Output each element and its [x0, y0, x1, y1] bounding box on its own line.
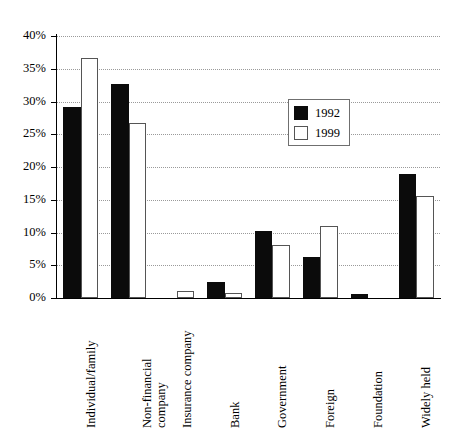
- bar-group: [201, 36, 249, 298]
- category-label: Insurance company: [181, 330, 195, 428]
- bar-1999: [225, 293, 243, 298]
- y-tick-text: 25%: [23, 127, 46, 140]
- y-axis-tick-mark: [51, 298, 56, 299]
- category-label: Government: [276, 366, 290, 428]
- category-label: Foundation: [372, 371, 386, 428]
- y-tick-text: 30%: [23, 95, 46, 108]
- y-tick-text: 0%: [29, 291, 46, 304]
- y-axis-tick-mark: [51, 167, 56, 168]
- bar-1992: [399, 174, 417, 298]
- bar-1999: [416, 196, 434, 298]
- bar-1992: [111, 84, 129, 298]
- bar-1999: [177, 291, 195, 298]
- bar-1992: [303, 257, 321, 298]
- bar-1999: [129, 123, 147, 298]
- y-tick-text: 40%: [23, 29, 46, 42]
- bar-group: [296, 36, 344, 298]
- y-axis-tick-mark: [51, 200, 56, 201]
- chart-legend: 1992 1999: [288, 99, 350, 146]
- bar-group: [153, 36, 201, 298]
- y-tick-text: 15%: [23, 193, 46, 206]
- y-tick-text: 10%: [23, 226, 46, 239]
- bar-1992: [255, 231, 273, 298]
- x-axis-category-labels: Individual/familyNon-financialcompanyIns…: [57, 300, 440, 435]
- category-label: Foreign: [324, 389, 338, 428]
- category-label-line: company: [154, 359, 168, 428]
- category-label-line: Bank: [229, 402, 243, 428]
- category-label: Non-financialcompany: [140, 359, 168, 428]
- bar-group: [392, 36, 440, 298]
- y-axis-tick-mark: [51, 69, 56, 70]
- category-label: Individual/family: [85, 341, 99, 428]
- legend-label-1999: 1999: [315, 125, 340, 141]
- y-axis-tick-mark: [51, 233, 56, 234]
- category-label-line: Individual/family: [85, 341, 99, 428]
- legend-swatch-1992: [294, 106, 308, 120]
- y-tick-text: 20%: [23, 160, 46, 173]
- legend-swatch-1999: [294, 126, 308, 140]
- category-label-line: Non-financial: [140, 359, 154, 428]
- y-tick-text: 5%: [29, 258, 46, 271]
- legend-label-1992: 1992: [315, 105, 340, 121]
- category-label: Widely held: [420, 367, 434, 428]
- category-label-line: Foreign: [324, 389, 338, 428]
- bar-1999: [272, 245, 290, 298]
- bar-group: [105, 36, 153, 298]
- bar-1992: [63, 107, 81, 298]
- y-axis-tick-mark: [51, 102, 56, 103]
- category-label-line: Insurance company: [181, 330, 195, 428]
- category-label-line: Foundation: [372, 371, 386, 428]
- y-axis-tick-mark: [51, 265, 56, 266]
- bar-group: [57, 36, 105, 298]
- category-label: Bank: [229, 402, 243, 428]
- y-axis-tick-mark: [51, 36, 56, 37]
- bar-chart: 0%5%10%15%20%25%30%35%40% Individual/fam…: [0, 0, 474, 435]
- bar-1992: [207, 282, 225, 298]
- y-axis-tick-mark: [51, 134, 56, 135]
- bar-1999: [81, 58, 99, 298]
- category-label-line: Government: [276, 366, 290, 428]
- bar-1999: [320, 226, 338, 298]
- bar-group: [249, 36, 297, 298]
- y-tick-text: 35%: [23, 62, 46, 75]
- category-label-line: Widely held: [420, 367, 434, 428]
- y-axis-labels: 0%5%10%15%20%25%30%35%40%: [0, 36, 50, 298]
- plot-area: [57, 36, 440, 298]
- bar-group: [344, 36, 392, 298]
- bar-1992: [351, 294, 369, 298]
